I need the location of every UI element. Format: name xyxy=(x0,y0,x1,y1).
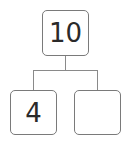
part-left-value: 4 xyxy=(25,100,42,126)
whole-value: 10 xyxy=(49,20,82,46)
right-drop-line xyxy=(97,70,98,90)
stem-line xyxy=(65,56,66,70)
left-drop-line xyxy=(33,70,34,90)
part-box-right[interactable] xyxy=(74,90,121,135)
whole-box: 10 xyxy=(42,10,89,56)
part-box-left: 4 xyxy=(10,90,57,135)
branch-line xyxy=(33,70,98,71)
